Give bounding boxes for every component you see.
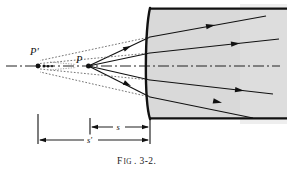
- convergence-dot-b: [47, 65, 50, 68]
- glass-medium-right-haze: [240, 4, 287, 124]
- figure-3-2-container: P' P s s' F IG . 3-2.: [0, 0, 287, 172]
- caption-number: . 3-2.: [134, 156, 156, 166]
- optics-refraction-diagram: P' P s s' F IG . 3-2.: [0, 0, 287, 172]
- label-P-prime: P': [29, 46, 39, 57]
- convergence-dot-c: [51, 65, 53, 67]
- dim-s-prime-label: s': [87, 135, 92, 145]
- caption-prefix-letter: F: [117, 156, 123, 166]
- image-point-P-prime-marker: [36, 64, 41, 69]
- label-P: P: [75, 54, 83, 65]
- object-point-P-marker: [86, 64, 91, 69]
- caption-smallcaps: IG: [124, 158, 132, 166]
- figure-caption: F IG . 3-2.: [117, 156, 156, 166]
- convergence-dot-a: [43, 65, 46, 68]
